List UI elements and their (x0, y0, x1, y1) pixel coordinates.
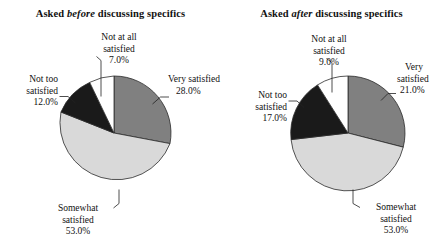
pie-label-not-too-satisfied: Not too satisfied 17.0% (229, 90, 287, 125)
pie-label-not-at-all-satisfied: Not at all satisfied 7.0% (86, 32, 152, 67)
pie-label-value: 53.0% (361, 225, 431, 237)
pie-label-somewhat-satisfied: Somewhat satisfied 53.0% (44, 203, 112, 238)
pie-label-line-2: satisfied (86, 44, 152, 56)
pie-label-value: 28.0% (168, 86, 224, 98)
leader-line-somewhat (353, 190, 360, 208)
pie-label-very-satisfied: Very satisfied 21.0% (397, 62, 442, 97)
chart-panel-after: Asked after discussing specifics Not at … (221, 0, 442, 244)
pie-label-line-2: satisfied (361, 214, 431, 226)
pie-label-not-at-all-satisfied: Not at all satisfied 9.0% (295, 34, 363, 69)
pie-label-line-1: Not at all (86, 32, 152, 44)
pie-label-somewhat-satisfied: Somewhat satisfied 53.0% (361, 202, 431, 237)
pie-label-line-2: satisfied (397, 74, 442, 86)
pie-label-line-1: Somewhat (44, 203, 112, 215)
pie-label-line-2: satisfied (44, 215, 112, 227)
pie-label-value: 21.0% (397, 85, 442, 97)
pie-label-value: 53.0% (44, 226, 112, 238)
pie-label-value: 9.0% (295, 57, 363, 69)
pie-label-line-1: Not at all (295, 34, 363, 46)
pie-label-line-1: Not too (229, 90, 287, 102)
pie-label-value: 17.0% (229, 113, 287, 125)
chart-panel-before: Asked before discussing specifics Not at… (0, 0, 221, 244)
pie-label-line-1: Not too (2, 74, 58, 86)
pie-label-not-too-satisfied: Not too satisfied 12.0% (2, 74, 58, 109)
pie-label-line-1: Very (397, 62, 442, 74)
pie-slice-very-satisfied[interactable] (114, 76, 171, 144)
leader-line-somewhat (114, 190, 120, 209)
pie-label-value: 7.0% (86, 55, 152, 67)
pie-label-line-2: satisfied (2, 86, 58, 98)
pie-label-line-1: Very satisfied (168, 74, 224, 86)
pie-label-value: 12.0% (2, 97, 58, 109)
pie-label-line-2: satisfied (295, 46, 363, 58)
pie-label-line-1: Somewhat (361, 202, 431, 214)
pie-label-line-2: satisfied (229, 102, 287, 114)
pie-label-very-satisfied: Very satisfied 28.0% (168, 74, 224, 97)
